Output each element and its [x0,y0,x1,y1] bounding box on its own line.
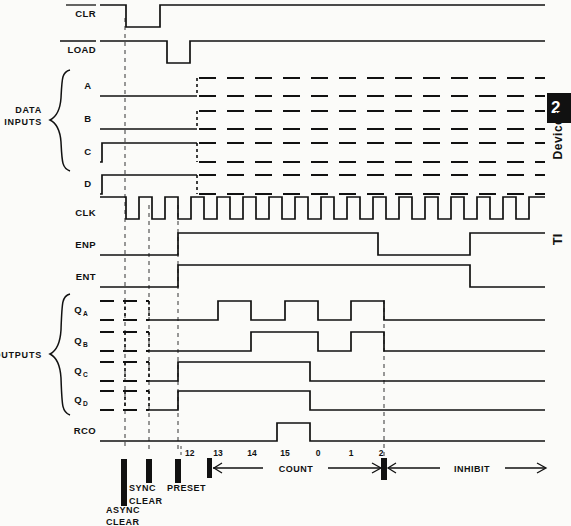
count-label-12: 12 [185,448,195,458]
signal-sublabel-qb: B [83,341,88,348]
waveform-rco [100,423,545,441]
span-label-count: COUNT [279,464,314,474]
edge-text-ti: TI [547,232,569,282]
event-label-sync-clear-line1: SYNC [129,483,156,493]
group-label-data-inputs-line1: DATA [15,105,42,115]
edge-text-ti-label: TI [551,234,566,246]
waveform-load [100,41,545,63]
group-label-outputs: OUTPUTS [0,350,42,360]
signal-label-ent: ENT [76,271,96,282]
group-label-data-inputs-line2: INPUTS [4,117,42,127]
signal-label-enp: ENP [75,239,96,250]
dontcare-a [197,78,545,96]
signal-label-qd: Q [74,394,82,405]
event-label-async-clear-line2: CLEAR [106,517,140,526]
signal-label-load: LOAD [67,44,96,55]
count-label-0: 0 [316,448,321,458]
timing-waveform-canvas: CLR LOAD A B C D CLK ENP ENT Q A Q B Q C… [0,0,571,526]
waveform-qb [149,332,545,351]
dontcare-c [197,143,545,162]
phase-spans: COUNT INHIBIT [207,458,546,480]
waveform-clk [100,197,545,219]
marker-lines [125,18,384,470]
dontcare-b [197,111,545,129]
waveform-c [100,143,197,162]
edge-text-devices-label: Devices [551,111,565,160]
count-label-15: 15 [280,448,290,458]
signal-label-qc: Q [74,365,82,376]
edge-text-devices: Devices [547,128,569,238]
tickbar-async-clear [121,459,127,506]
signal-sublabel-qa: A [83,310,88,317]
waveform-d [100,175,197,194]
span-label-inhibit: INHIBIT [454,464,490,474]
timing-diagram-root: CLR LOAD A B C D CLK ENP ENT Q A Q B Q C… [0,0,571,526]
signal-label-b: B [84,113,91,124]
count-label-13: 13 [213,448,223,458]
count-label-14: 14 [247,448,257,458]
brace-data-inputs [50,70,70,171]
brace-outputs [50,294,70,415]
signal-label-clr: CLR [75,8,96,19]
dontcare-d [197,175,545,194]
waveform-qd [149,391,545,410]
waveform-qa [149,301,545,320]
tickbar-preset [175,459,181,483]
event-label-preset: PRESET [167,483,206,493]
span-divider-bar [381,458,387,480]
signal-label-a: A [84,80,91,91]
signal-sublabel-qd: D [83,400,88,407]
count-axis: 12 13 14 15 0 1 2 [181,446,384,458]
signal-label-d: D [84,178,91,189]
count-label-1: 1 [349,448,354,458]
tickbar-sync-clear [146,459,152,483]
waveform-enp [100,233,545,255]
signal-label-rco: RCO [74,425,96,436]
waveform-ent [100,265,545,287]
signal-labels: CLR LOAD A B C D CLK ENP ENT Q A Q B Q C… [60,5,96,436]
waveform-clr [100,5,545,27]
signal-sublabel-qc: C [83,371,88,378]
event-label-async-clear-line1: ASYNC [106,505,140,515]
signal-label-c: C [84,146,91,157]
event-markers: SYNC CLEAR PRESET ASYNC CLEAR [106,459,206,526]
signal-label-clk: CLK [75,207,96,218]
waveform-qc [149,362,545,381]
signal-label-qb: Q [74,335,82,346]
count-label-2: 2 [379,448,384,458]
group-braces: DATA INPUTS OUTPUTS [0,70,70,415]
signal-label-qa: Q [74,304,82,315]
span-start-bar-count [207,458,212,478]
dontcare-qd [100,391,149,410]
